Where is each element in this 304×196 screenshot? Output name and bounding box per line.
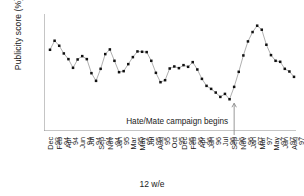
data-point-marker — [132, 56, 135, 59]
data-point-marker — [122, 70, 125, 73]
data-point-marker — [136, 50, 139, 53]
data-point-marker — [191, 61, 194, 64]
data-point-marker — [113, 60, 116, 63]
data-point-marker — [205, 85, 208, 88]
data-point-marker — [95, 80, 98, 83]
data-point-marker — [58, 45, 61, 48]
data-point-marker — [233, 86, 236, 89]
data-point-marker — [53, 39, 56, 42]
x-tick-label: Aug97 — [290, 137, 304, 150]
svg-text:97: 97 — [297, 137, 304, 145]
data-point-marker — [63, 52, 66, 55]
data-point-marker — [293, 76, 296, 79]
data-point-marker — [109, 48, 112, 51]
data-point-marker — [178, 67, 181, 70]
x-axis-title: 12 w/e — [0, 179, 304, 189]
data-point-marker — [265, 44, 268, 47]
data-point-marker — [118, 71, 121, 74]
data-point-marker — [251, 31, 254, 34]
data-point-marker — [49, 49, 52, 52]
series-line — [50, 26, 294, 100]
data-point-marker — [67, 58, 70, 61]
data-point-marker — [261, 28, 264, 31]
data-point-marker — [247, 40, 250, 43]
data-point-marker — [164, 79, 167, 82]
data-point-marker — [81, 55, 84, 58]
data-point-marker — [76, 58, 79, 61]
data-point-marker — [155, 72, 158, 75]
data-point-marker — [127, 63, 130, 66]
data-point-marker — [238, 71, 241, 74]
publicity-score-chart: Publicity score (%) 2025303540455055 Dec… — [0, 0, 304, 196]
data-point-marker — [256, 24, 258, 27]
data-point-marker — [288, 70, 291, 73]
data-point-marker — [201, 78, 204, 81]
data-point-marker — [242, 54, 245, 57]
data-point-marker — [274, 60, 277, 63]
data-point-marker — [224, 93, 227, 96]
chart-canvas: 2025303540455055 — [44, 14, 296, 131]
data-point-marker — [284, 68, 287, 71]
data-point-marker — [141, 51, 144, 54]
data-point-marker — [86, 58, 89, 61]
y-axis-title: Publicity score (%) — [13, 0, 27, 82]
data-point-marker — [159, 81, 162, 84]
data-point-marker — [168, 67, 171, 70]
data-point-marker — [104, 53, 107, 56]
data-point-marker — [145, 51, 148, 54]
data-point-marker — [90, 72, 93, 75]
data-point-marker — [72, 67, 75, 70]
data-point-marker — [187, 66, 190, 69]
data-point-marker — [173, 65, 176, 68]
data-point-marker — [279, 61, 282, 64]
data-point-marker — [99, 68, 102, 71]
data-point-marker — [214, 91, 217, 94]
data-point-marker — [150, 60, 153, 63]
data-point-marker — [228, 98, 231, 101]
data-point-marker — [219, 96, 222, 99]
plot-area: 2025303540455055 — [44, 14, 296, 131]
data-point-marker — [210, 88, 213, 91]
data-point-marker — [182, 64, 185, 67]
data-point-marker — [270, 54, 273, 57]
data-point-marker — [196, 68, 199, 71]
